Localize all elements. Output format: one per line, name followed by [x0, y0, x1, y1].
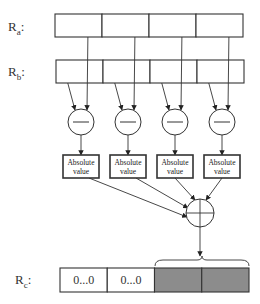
- wire-abs-sum-1: [136, 178, 188, 208]
- wire-abs-sum-2: [175, 178, 195, 200]
- sad-diagram: [0, 0, 260, 304]
- ra-cell-1: [102, 14, 149, 37]
- wire-ra-1: [134, 37, 135, 110]
- wire-rb-2: [162, 83, 169, 110]
- ra-cell-3: [196, 14, 243, 37]
- rb-cell-1: [103, 60, 150, 83]
- abs-box-label: Absolutevalue: [110, 158, 146, 176]
- rb-cell-0: [56, 60, 103, 83]
- wire-ra-2: [181, 37, 182, 110]
- rc-cell-text: 0...0: [60, 273, 107, 288]
- wire-abs-sum-0: [89, 178, 187, 217]
- wire-rb-3: [209, 83, 216, 110]
- abs-box-label: Absolutevalue: [204, 158, 240, 176]
- rc-cell-2: [155, 268, 202, 292]
- label-ra: Ra:: [8, 19, 24, 37]
- abs-box-label: Absolutevalue: [157, 158, 193, 176]
- rc-cell-text: 0...0: [107, 273, 154, 288]
- ra-cell-0: [55, 14, 102, 37]
- label-rb: Rb:: [8, 64, 25, 82]
- brace-icon: [155, 256, 249, 266]
- wire-rb-1: [115, 83, 122, 110]
- label-rc: Rc:: [15, 272, 31, 290]
- wire-rb-0: [68, 83, 75, 110]
- wire-ra-0: [87, 37, 88, 110]
- rc-cell-3: [202, 268, 249, 292]
- wire-ra-3: [228, 37, 229, 110]
- registers: [55, 14, 249, 292]
- rb-cell-2: [150, 60, 197, 83]
- rb-cell-3: [197, 60, 244, 83]
- ra-cell-2: [149, 14, 196, 37]
- wire-abs-sum-3: [206, 178, 222, 200]
- abs-box-label: Absolutevalue: [63, 158, 99, 176]
